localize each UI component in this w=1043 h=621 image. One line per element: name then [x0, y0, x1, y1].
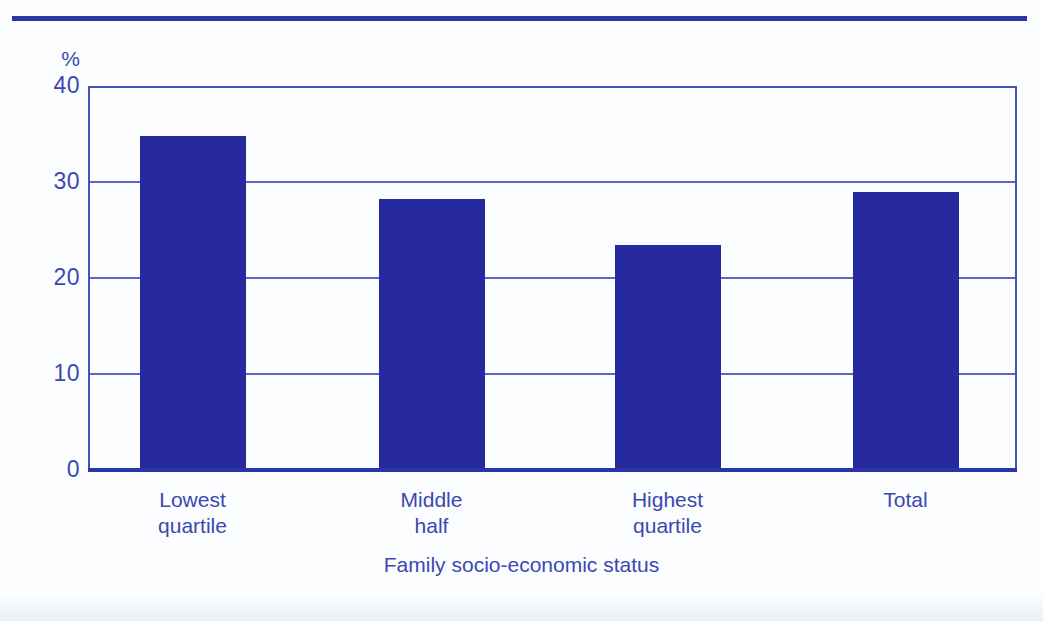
- plot-area: [88, 86, 1017, 470]
- x-axis-label-highest-quartile: Highestquartile: [553, 487, 783, 539]
- x-axis-title: Family socio-economic status: [0, 553, 1043, 577]
- y-axis-tick-0: 0: [10, 458, 80, 481]
- x-axis-label-lowest-quartile: Lowestquartile: [78, 487, 308, 539]
- x-axis-label-line: half: [317, 513, 547, 539]
- y-axis-tick-30: 30: [10, 170, 80, 193]
- y-axis-tick-10: 10: [10, 362, 80, 385]
- x-axis-label-line: Middle: [317, 487, 547, 513]
- y-axis-tick-20: 20: [10, 266, 80, 289]
- x-axis-label-line: Total: [791, 487, 1021, 513]
- bar-total: [853, 192, 959, 468]
- axis-baseline: [88, 468, 1017, 472]
- x-axis-label-line: quartile: [78, 513, 308, 539]
- y-axis-tick-40: 40: [10, 74, 80, 97]
- header-rule: [12, 16, 1027, 21]
- x-axis-label-total: Total: [791, 487, 1021, 513]
- bar-middle-half: [379, 199, 485, 468]
- x-axis-label-line: quartile: [553, 513, 783, 539]
- x-axis-label-line: Lowest: [78, 487, 308, 513]
- paper-edge-shading: [0, 595, 1043, 621]
- x-axis-label-middle-half: Middlehalf: [317, 487, 547, 539]
- chart-page: % 010203040 LowestquartileMiddlehalfHigh…: [0, 0, 1043, 621]
- bar-highest-quartile: [615, 245, 721, 468]
- x-axis-label-line: Highest: [553, 487, 783, 513]
- bar-lowest-quartile: [140, 136, 246, 468]
- y-axis-unit-label: %: [10, 48, 80, 69]
